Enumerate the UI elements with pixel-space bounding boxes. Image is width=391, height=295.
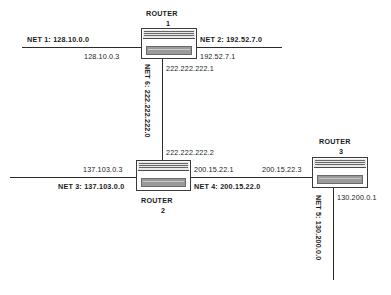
net2-label: NET 2: 192.52.7.0: [200, 35, 262, 44]
net3-label: NET 3: 137.103.0.0: [58, 182, 124, 191]
interface-address-222-222-222-2: 222.222.222.2: [166, 148, 214, 157]
router1-chassis: [141, 28, 197, 59]
net6-label: NET 6: 222.222.222.0: [143, 64, 152, 138]
network-diagram-canvas: ROUTER 1 NET 1: 128.10.0.0 128.10.0.3 NE…: [0, 0, 391, 295]
router3-card-slots: [314, 159, 366, 168]
net4-bus-line: [191, 177, 312, 178]
net6-bus-line: [162, 59, 163, 160]
router3-chassis: [312, 157, 368, 188]
router3-name-label: ROUTER: [319, 137, 351, 146]
net1-label: NET 1: 128.10.0.0: [27, 35, 89, 44]
interface-address-192-52-7-1: 192.52.7.1: [200, 52, 235, 61]
router2-interface-module: [141, 178, 186, 187]
interface-address-130-200-0-1: 130.200.0.1: [337, 193, 377, 202]
interface-address-200-15-22-1: 200.15.22.1: [194, 165, 234, 174]
net2-bus-line: [197, 47, 282, 48]
router2-card-slots: [138, 162, 189, 171]
net5-label: NET 5: 130.200.0.0: [314, 195, 323, 260]
interface-address-222-222-222-1: 222.222.222.1: [166, 64, 214, 73]
router2-name-label: ROUTER: [141, 196, 173, 205]
interface-address-137-103-0-3: 137.103.0.3: [83, 165, 123, 174]
router3-interface-module: [317, 175, 363, 184]
interface-address-200-15-22-3: 200.15.22.3: [262, 165, 302, 174]
router3-number-label: 3: [339, 147, 343, 156]
net1-bus-line: [22, 47, 141, 48]
net3-bus-line: [10, 177, 136, 178]
net5-bus-line: [333, 188, 334, 280]
router1-name-label: ROUTER: [146, 9, 178, 18]
router2-chassis: [136, 160, 191, 191]
interface-address-128-10-0-3: 128.10.0.3: [84, 52, 119, 61]
router1-card-slots: [143, 30, 195, 39]
router1-interface-module: [146, 46, 192, 55]
router1-number-label: 1: [166, 19, 170, 28]
router2-number-label: 2: [161, 206, 165, 215]
net4-label: NET 4: 200.15.22.0: [194, 182, 260, 191]
